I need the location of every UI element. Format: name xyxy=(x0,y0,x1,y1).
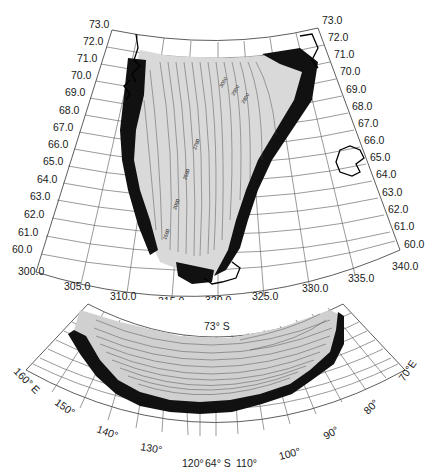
lat-label: 70.0 xyxy=(340,65,361,77)
lat-label: 65.0 xyxy=(43,155,64,167)
lat-label: 60.0 xyxy=(12,243,33,255)
lon-label: 160° E xyxy=(12,365,43,396)
lat-label: 66.0 xyxy=(364,134,385,146)
lat-label: 62.0 xyxy=(24,208,45,220)
lon-label: 310.0 xyxy=(110,290,136,300)
antarctica-map-canvas: 73° S 64° S 160° E 150° 140° 130° 120° 1… xyxy=(0,300,433,472)
lat-label: 67.0 xyxy=(53,121,74,133)
greenland-map-canvas: 3000 2900 2800 2700 2500 2000 1500 73.0 … xyxy=(0,0,433,300)
lat-label: 68.0 xyxy=(352,100,373,112)
lon-label: 325.0 xyxy=(252,290,278,300)
greenland-ice-sheet: 3000 2900 2800 2700 2500 2000 1500 xyxy=(120,48,318,284)
lat-label: 67.0 xyxy=(358,117,379,129)
lon-label: 130° xyxy=(140,440,163,456)
lat-label: 72.0 xyxy=(83,35,104,47)
lon-label: 90° xyxy=(321,423,341,441)
lon-label: 150° xyxy=(53,396,78,418)
lat-label: 61.0 xyxy=(18,226,39,238)
lat-label: 64.0 xyxy=(37,173,58,185)
greenland-elevation-map: 3000 2900 2800 2700 2500 2000 1500 73.0 … xyxy=(0,0,433,300)
lat-label: 72.0 xyxy=(328,31,349,43)
lon-label: 120° xyxy=(182,457,204,469)
lon-label: 110° xyxy=(236,457,257,469)
lon-label: 305.0 xyxy=(64,280,90,292)
lon-label: 330.0 xyxy=(302,282,328,294)
lon-label: 335.0 xyxy=(348,272,374,284)
lon-label: 100° xyxy=(277,445,301,462)
lon-label: 140° xyxy=(95,423,120,442)
lon-label: 80° xyxy=(361,397,381,417)
lon-label: 340.0 xyxy=(392,260,418,272)
lat-label: 63.0 xyxy=(382,186,403,198)
lat-label: 71.0 xyxy=(77,52,98,64)
lat-label: 62.0 xyxy=(388,203,409,215)
lat-label: 73.0 xyxy=(322,14,343,26)
lat-label: 68.0 xyxy=(59,104,80,116)
lat-label: 65.0 xyxy=(370,151,391,163)
lat-label: 60.0 xyxy=(404,238,425,250)
lat-label: 61.0 xyxy=(394,220,415,232)
lat-label: 73.0 xyxy=(89,18,110,30)
lon-label: 300.0 xyxy=(18,265,44,277)
lat-label: 71.0 xyxy=(334,48,355,60)
lat-label-64s: 64° S xyxy=(205,457,231,469)
lon-label: 70°E xyxy=(396,358,419,384)
latitude-labels-right: 73.0 72.0 71.0 70.0 69.0 68.0 67.0 66.0 … xyxy=(322,14,425,250)
lat-label: 70.0 xyxy=(71,69,92,81)
lat-label: 69.0 xyxy=(65,86,86,98)
lat-label: 66.0 xyxy=(48,138,69,150)
lat-label: 69.0 xyxy=(346,83,367,95)
lat-label: 64.0 xyxy=(376,168,397,180)
antarctica-elevation-map: 73° S 64° S 160° E 150° 140° 130° 120° 1… xyxy=(0,300,433,472)
lat-label: 63.0 xyxy=(30,190,51,202)
lat-label-73s: 73° S xyxy=(204,320,230,332)
